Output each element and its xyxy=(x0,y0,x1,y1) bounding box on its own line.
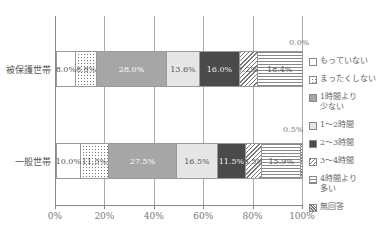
data-label: 11.5% xyxy=(82,157,107,166)
legend-item: まったくしない xyxy=(309,74,376,84)
legend-label: 2～3時間 xyxy=(320,138,354,148)
x-tick xyxy=(104,205,105,209)
legend-item: 1時間より 少ない xyxy=(309,92,376,112)
x-tick-label: 0% xyxy=(48,211,62,221)
annotation-row1-noanswer: 0.0% xyxy=(289,38,309,47)
bar-segment: 27.5% xyxy=(109,143,177,179)
legend-swatch-icon xyxy=(309,76,317,84)
x-tick-label: 80% xyxy=(243,211,263,221)
legend-swatch-icon xyxy=(309,122,317,130)
data-label: 15.9% xyxy=(269,157,294,166)
bar-segment: 16.0% xyxy=(200,51,240,87)
data-label: 7.2% xyxy=(238,65,258,74)
legend-item: 3～4時間 xyxy=(309,156,376,166)
bar-segment: 16.5% xyxy=(177,143,218,179)
legend-swatch-icon xyxy=(309,176,317,184)
bar-segment: 10.0% xyxy=(56,143,81,179)
bar-segment: 6.5% xyxy=(246,143,262,179)
legend-item: 2～3時間 xyxy=(309,138,376,148)
data-label: 27.5% xyxy=(130,157,155,166)
x-tick xyxy=(55,205,56,209)
x-tick-label: 60% xyxy=(193,211,213,221)
legend-label: もっていない xyxy=(320,56,368,66)
legend-label: 4時間より 多い xyxy=(320,174,357,194)
legend-item: 4時間より 多い xyxy=(309,174,376,194)
data-label: 16.5% xyxy=(184,157,209,166)
data-label: 18.4% xyxy=(267,65,292,74)
x-tick xyxy=(253,205,254,209)
bar-1: 10.0%11.5%27.5%16.5%11.5%6.5%15.9% xyxy=(56,143,303,179)
legend-item: 1～2時間 xyxy=(309,120,376,130)
legend-label: 3～4時間 xyxy=(320,156,354,166)
legend-swatch-icon xyxy=(309,158,317,166)
x-tick xyxy=(302,205,303,209)
legend-label: 1～2時間 xyxy=(320,120,354,130)
bar-segment: 28.0% xyxy=(97,51,166,87)
data-label: 8.0% xyxy=(56,65,76,74)
bar-segment: 8.8% xyxy=(76,51,98,87)
bar-segment: 8.0% xyxy=(56,51,76,87)
legend-swatch-icon xyxy=(309,204,317,212)
category-label: 一般世帯 xyxy=(0,155,51,168)
bar-segment: 13.6% xyxy=(167,51,201,87)
legend-swatch-icon xyxy=(309,140,317,148)
bar-segment: 18.4% xyxy=(258,51,303,87)
legend-label: 無回答 xyxy=(320,202,344,212)
data-label: 16.0% xyxy=(207,65,232,74)
legend: もっていないまったくしない1時間より 少ない1～2時間2～3時間3～4時間4時間… xyxy=(309,56,376,220)
data-label: 13.6% xyxy=(170,65,195,74)
data-label: 6.5% xyxy=(244,157,264,166)
x-tick xyxy=(154,205,155,209)
annotation-row2-noanswer: 0.5% xyxy=(283,125,303,134)
x-tick-label: 40% xyxy=(144,211,164,221)
legend-swatch-icon xyxy=(309,58,317,66)
data-label: 8.8% xyxy=(76,65,96,74)
data-label: 10.0% xyxy=(56,157,81,166)
category-label: 被保護世帯 xyxy=(0,63,51,76)
plot-area: 8.0%8.8%28.0%13.6%16.0%7.2%18.4%10.0%11.… xyxy=(55,16,303,206)
bar-0: 8.0%8.8%28.0%13.6%16.0%7.2%18.4% xyxy=(56,51,303,87)
x-tick xyxy=(203,205,204,209)
bar-segment: 15.9% xyxy=(262,143,301,179)
bar-segment: 11.5% xyxy=(81,143,109,179)
x-tick-label: 20% xyxy=(94,211,114,221)
legend-label: まったくしない xyxy=(320,74,376,84)
bar-segment: 7.2% xyxy=(240,51,258,87)
data-label: 11.5% xyxy=(219,157,244,166)
bar-segment: 11.5% xyxy=(218,143,246,179)
legend-swatch-icon xyxy=(309,94,317,102)
legend-item: 無回答 xyxy=(309,202,376,212)
data-label: 28.0% xyxy=(119,65,144,74)
legend-item: もっていない xyxy=(309,56,376,66)
legend-label: 1時間より 少ない xyxy=(320,92,357,112)
bar-segment xyxy=(301,143,302,179)
